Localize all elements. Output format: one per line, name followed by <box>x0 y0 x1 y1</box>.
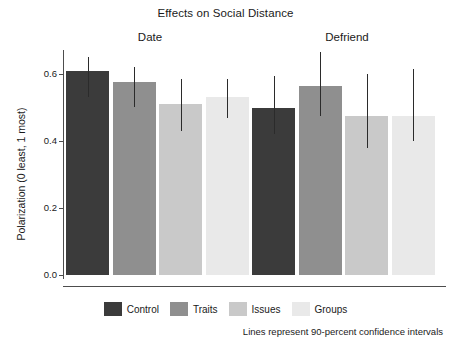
bar-date-traits <box>113 82 156 275</box>
errorbar-date-traits <box>134 67 135 107</box>
errorbar-defriend-traits <box>320 52 321 116</box>
legend-swatch-icon <box>292 302 310 316</box>
errorbar-date-groups <box>227 79 228 118</box>
legend-item-label: Issues <box>252 304 281 315</box>
legend-swatch-icon <box>229 302 247 316</box>
panel-divider <box>63 279 446 280</box>
y-tick-mark <box>59 141 63 142</box>
errorbar-date-control <box>88 57 89 97</box>
bar-date-groups <box>206 97 249 275</box>
y-tick-label: 0.2 <box>31 202 57 214</box>
y-tick-label: 0.6 <box>31 68 57 80</box>
legend: ControlTraitsIssuesGroups <box>0 302 451 316</box>
legend-item-label: Groups <box>315 304 348 315</box>
legend-swatch-icon <box>104 302 122 316</box>
y-axis-line <box>63 50 64 279</box>
y-tick-label: 0.4 <box>31 135 57 147</box>
y-tick-label-text: 0.2 <box>31 202 57 213</box>
y-tick-label-text: 0.0 <box>31 269 57 280</box>
y-tick-label-text: 0.6 <box>31 68 57 79</box>
x-axis-line <box>63 286 446 287</box>
chart-figure: Effects on Social Distance Date Defriend… <box>0 0 451 347</box>
legend-item-control[interactable]: Control <box>104 302 159 316</box>
bar-date-control <box>66 71 109 275</box>
errorbar-date-issues <box>181 79 182 131</box>
legend-swatch-icon <box>170 302 188 316</box>
legend-item-groups[interactable]: Groups <box>292 302 348 316</box>
y-tick-mark <box>59 208 63 209</box>
legend-item-issues[interactable]: Issues <box>229 302 281 316</box>
legend-item-label: Traits <box>193 304 218 315</box>
y-tick-label: 0.0 <box>31 269 57 281</box>
errorbar-defriend-issues <box>367 74 368 148</box>
chart-annotation: Lines represent 90-percent confidence in… <box>243 326 443 337</box>
legend-item-traits[interactable]: Traits <box>170 302 218 316</box>
errorbar-defriend-groups <box>413 69 414 141</box>
plot-area: 0.00.20.40.6 <box>0 0 451 347</box>
errorbar-defriend-control <box>274 76 275 135</box>
y-tick-mark <box>59 275 63 276</box>
y-tick-label-text: 0.4 <box>31 135 57 146</box>
legend-item-label: Control <box>127 304 159 315</box>
y-tick-mark <box>59 74 63 75</box>
